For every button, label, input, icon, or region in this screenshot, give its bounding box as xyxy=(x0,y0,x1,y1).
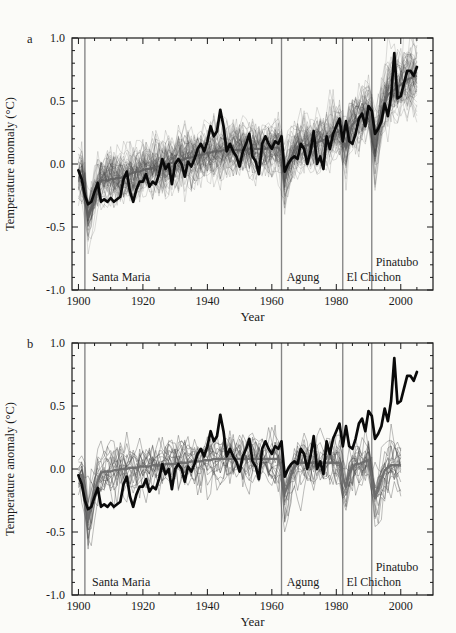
y-tick-label: 1.0 xyxy=(50,31,65,45)
panel-b-y-axis-title: Temperature anomaly (°C) xyxy=(3,402,17,536)
panel-b-letter: b xyxy=(27,337,33,351)
x-tick-label: 1920 xyxy=(131,294,155,308)
volcano-label-santa-maria: Santa Maria xyxy=(92,270,151,284)
volcano-label-el-chichon: El Chichon xyxy=(347,270,401,284)
figure: 1900192019401960198020001.00.50.0-0.5-1.… xyxy=(0,0,456,633)
panel-a-y-axis-title: Temperature anomaly (°C) xyxy=(3,97,17,231)
y-tick-label: 0.5 xyxy=(50,399,65,413)
x-tick-label: 2000 xyxy=(389,294,413,308)
panel-b-volcano-labels: Santa Maria Agung El Chichon Pinatubo xyxy=(92,560,418,589)
x-tick-label: 1980 xyxy=(324,294,348,308)
panel-a: 1900192019401960198020001.00.50.0-0.5-1.… xyxy=(3,20,433,324)
x-tick-label: 1940 xyxy=(195,294,219,308)
figure-svg: 1900192019401960198020001.00.50.0-0.5-1.… xyxy=(0,0,456,633)
x-tick-label: 1940 xyxy=(195,599,219,613)
y-tick-label: 1.0 xyxy=(50,336,65,350)
x-tick-label: 1980 xyxy=(324,599,348,613)
y-tick-label: 0.5 xyxy=(50,94,65,108)
volcano-label-el-chichon: El Chichon xyxy=(347,575,401,589)
volcano-label-pinatubo: Pinatubo xyxy=(376,255,419,269)
volcano-label-pinatubo: Pinatubo xyxy=(376,560,419,574)
panel-b: 1900192019401960198020001.00.50.0-0.5-1.… xyxy=(3,336,433,629)
panel-b-x-axis-title: Year xyxy=(241,614,266,629)
volcano-label-agung: Agung xyxy=(287,270,320,284)
x-tick-label: 1900 xyxy=(66,294,90,308)
panel-a-x-axis-title: Year xyxy=(241,309,266,324)
y-tick-label: -1.0 xyxy=(46,283,65,297)
y-tick-label: -0.5 xyxy=(46,220,65,234)
panel-a-volcano-labels: Santa Maria Agung El Chichon Pinatubo xyxy=(92,255,418,284)
y-tick-label: 0.0 xyxy=(50,157,65,171)
x-tick-label: 1960 xyxy=(260,294,284,308)
x-tick-label: 1900 xyxy=(66,599,90,613)
x-tick-label: 1960 xyxy=(260,599,284,613)
x-tick-label: 1920 xyxy=(131,599,155,613)
volcano-label-santa-maria: Santa Maria xyxy=(92,575,151,589)
panel-a-letter: a xyxy=(27,32,33,46)
volcano-label-agung: Agung xyxy=(287,575,320,589)
ensemble-group xyxy=(78,424,400,549)
y-tick-label: -1.0 xyxy=(46,588,65,602)
x-tick-label: 2000 xyxy=(389,599,413,613)
y-tick-label: -0.5 xyxy=(46,525,65,539)
y-tick-label: 0.0 xyxy=(50,462,65,476)
